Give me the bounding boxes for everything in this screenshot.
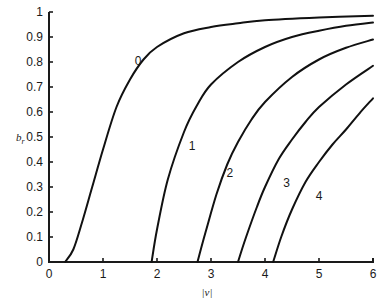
x-tick-label: 5	[316, 267, 323, 281]
y-tick-label: 0.7	[26, 80, 43, 94]
x-tick-label: 2	[154, 267, 161, 281]
curve-label-4: 4	[316, 189, 323, 203]
y-axis-title-sub: r	[22, 137, 26, 146]
curve-label-3: 3	[283, 176, 290, 190]
y-tick-label: 0	[36, 255, 43, 269]
curve-label-2: 2	[227, 166, 234, 180]
y-tick-label: 0.3	[26, 180, 43, 194]
chart-axes	[49, 12, 373, 262]
x-tick-label: 0	[46, 267, 53, 281]
x-axis-title: |ν|	[202, 286, 213, 298]
y-tick-label: 0.5	[26, 130, 43, 144]
x-tick-label: 6	[370, 267, 377, 281]
y-axis-title: br	[16, 131, 26, 146]
x-tick-label: 4	[262, 267, 269, 281]
curve-1	[152, 23, 373, 263]
y-tick-label: 0.9	[26, 30, 43, 44]
curve-3	[238, 66, 373, 262]
x-tick-label: 3	[208, 267, 215, 281]
curve-label-0: 0	[135, 54, 142, 68]
plot-area	[65, 16, 373, 262]
x-tick-label: 1	[100, 267, 107, 281]
y-tick-label: 0.8	[26, 55, 43, 69]
chart: 00.10.20.30.40.50.60.70.80.91 0123456 01…	[0, 0, 384, 302]
curve-label-1: 1	[189, 139, 196, 153]
y-tick-label: 0.6	[26, 105, 43, 119]
y-tick-label: 0.2	[26, 205, 43, 219]
y-tick-label: 0.4	[26, 155, 43, 169]
y-tick-label: 0.1	[26, 230, 43, 244]
curve-0	[65, 16, 373, 262]
y-tick-label: 1	[36, 5, 43, 19]
